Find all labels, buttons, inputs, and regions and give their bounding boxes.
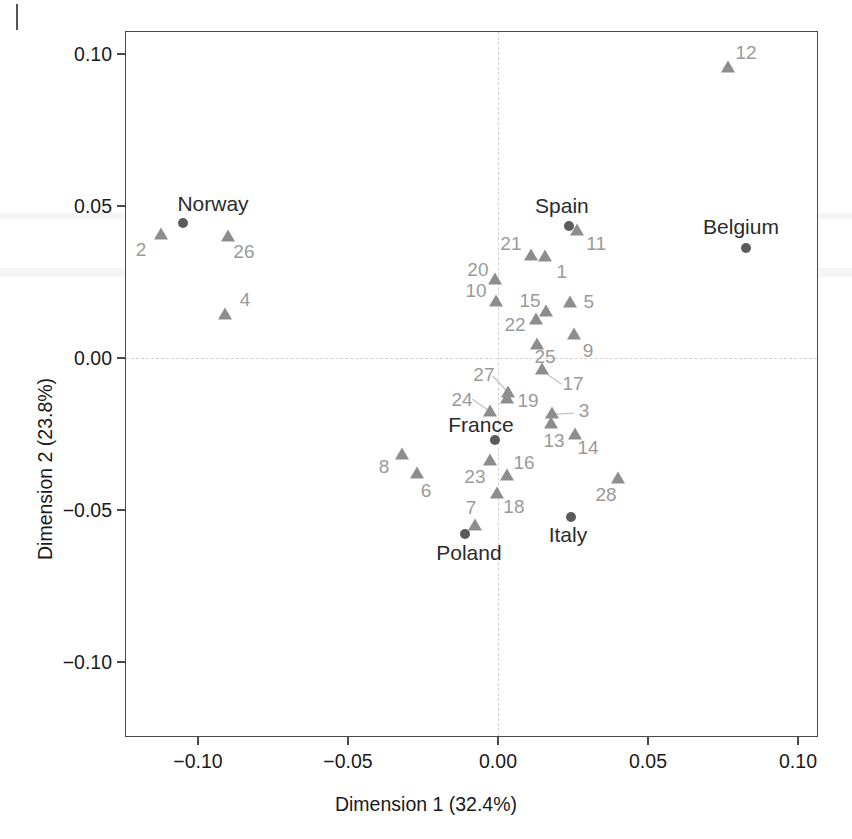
marker-triangle-6[interactable] bbox=[410, 467, 424, 479]
marker-dot-italy[interactable] bbox=[566, 512, 576, 522]
marker-triangle-5[interactable] bbox=[563, 295, 577, 307]
plot-area bbox=[125, 31, 818, 737]
y-axis-tick bbox=[117, 357, 125, 358]
marker-triangle-9[interactable] bbox=[567, 328, 581, 340]
marker-triangle-28[interactable] bbox=[611, 472, 625, 484]
x-axis-tick-label: 0.10 bbox=[779, 750, 817, 773]
point-label-3: 3 bbox=[579, 400, 590, 422]
marker-triangle-8[interactable] bbox=[395, 448, 409, 460]
marker-triangle-18[interactable] bbox=[490, 487, 504, 499]
point-label-20: 20 bbox=[467, 259, 488, 281]
y-axis-tick-label: 0.05 bbox=[74, 195, 112, 218]
marker-triangle-4[interactable] bbox=[218, 307, 232, 319]
point-label-21: 21 bbox=[500, 233, 521, 255]
point-label-19: 19 bbox=[517, 390, 538, 412]
country-label-france: France bbox=[448, 413, 513, 437]
y-axis-tick bbox=[117, 53, 125, 54]
point-label-8: 8 bbox=[379, 456, 390, 478]
y-axis-tick-label: 0.10 bbox=[74, 43, 112, 66]
x-axis-tick bbox=[497, 737, 498, 745]
marker-triangle-20[interactable] bbox=[488, 273, 502, 285]
country-label-belgium: Belgium bbox=[703, 215, 779, 239]
country-label-italy: Italy bbox=[549, 523, 588, 547]
point-label-4: 4 bbox=[240, 289, 251, 311]
point-label-11: 11 bbox=[586, 233, 606, 255]
point-label-27: 27 bbox=[473, 364, 494, 386]
point-label-1: 1 bbox=[557, 261, 568, 283]
y-axis-tick-label: −0.05 bbox=[63, 499, 112, 522]
x-axis-tick bbox=[347, 737, 348, 745]
x-axis-title: Dimension 1 (32.4%) bbox=[0, 793, 852, 816]
point-label-15: 15 bbox=[520, 290, 541, 312]
point-label-24: 24 bbox=[451, 389, 472, 411]
marker-dot-norway[interactable] bbox=[178, 218, 188, 228]
point-label-5: 5 bbox=[584, 291, 595, 313]
point-label-9: 9 bbox=[583, 340, 594, 362]
point-label-18: 18 bbox=[503, 496, 524, 518]
y-axis-tick bbox=[117, 661, 125, 662]
reference-line-horizontal bbox=[126, 358, 817, 359]
marker-triangle-16[interactable] bbox=[500, 468, 514, 480]
y-axis-tick bbox=[117, 205, 125, 206]
marker-dot-belgium[interactable] bbox=[741, 243, 751, 253]
point-label-12: 12 bbox=[736, 42, 757, 64]
marker-dot-spain[interactable] bbox=[564, 221, 574, 231]
marker-triangle-22[interactable] bbox=[529, 312, 543, 324]
marker-triangle-10[interactable] bbox=[489, 295, 503, 307]
marker-triangle-27[interactable] bbox=[501, 385, 515, 397]
country-label-spain: Spain bbox=[535, 194, 589, 218]
x-axis-tick-label: −0.10 bbox=[173, 750, 222, 773]
figure-page: −0.10−0.050.000.050.10−0.10−0.050.000.05… bbox=[0, 0, 852, 839]
point-label-26: 26 bbox=[233, 241, 254, 263]
marker-triangle-1[interactable] bbox=[538, 250, 552, 262]
point-label-2: 2 bbox=[136, 239, 147, 261]
marker-triangle-23[interactable] bbox=[483, 454, 497, 466]
marker-triangle-12[interactable] bbox=[721, 60, 735, 72]
point-label-6: 6 bbox=[421, 480, 432, 502]
x-axis-tick-label: 0.00 bbox=[479, 750, 517, 773]
marker-triangle-2[interactable] bbox=[154, 228, 168, 240]
point-label-10: 10 bbox=[466, 280, 487, 302]
marker-triangle-21[interactable] bbox=[524, 248, 538, 260]
point-label-7: 7 bbox=[466, 497, 477, 519]
point-label-23: 23 bbox=[464, 466, 485, 488]
x-axis-tick bbox=[647, 737, 648, 745]
marker-dot-poland[interactable] bbox=[460, 529, 470, 539]
country-label-poland: Poland bbox=[436, 541, 501, 565]
point-label-14: 14 bbox=[577, 437, 598, 459]
point-label-17: 17 bbox=[562, 373, 583, 395]
marker-triangle-13[interactable] bbox=[544, 416, 558, 428]
point-label-28: 28 bbox=[595, 484, 616, 506]
y-axis-tick-label: −0.10 bbox=[63, 651, 112, 674]
y-axis-tick-label: 0.00 bbox=[74, 347, 112, 370]
y-axis-title: Dimension 2 (23.8%) bbox=[34, 378, 57, 560]
y-axis-tick bbox=[117, 509, 125, 510]
x-axis-tick-label: −0.05 bbox=[323, 750, 372, 773]
point-label-13: 13 bbox=[544, 430, 565, 452]
country-label-norway: Norway bbox=[177, 192, 248, 216]
point-label-25: 25 bbox=[535, 346, 556, 368]
marker-triangle-7[interactable] bbox=[468, 518, 482, 530]
page-edge-rule bbox=[16, 4, 18, 30]
x-axis-tick-label: 0.05 bbox=[629, 750, 667, 773]
point-label-16: 16 bbox=[514, 452, 535, 474]
x-axis-tick bbox=[797, 737, 798, 745]
point-label-22: 22 bbox=[505, 314, 526, 336]
x-axis-tick bbox=[197, 737, 198, 745]
